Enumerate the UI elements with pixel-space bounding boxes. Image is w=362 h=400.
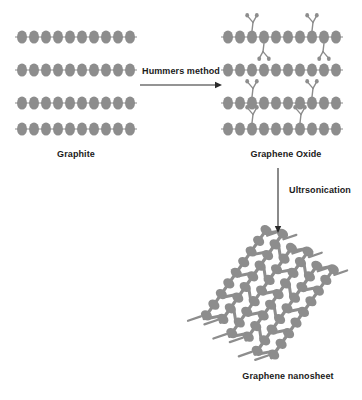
nanosheet-lattice — [188, 212, 347, 379]
carbon-atom — [283, 63, 293, 76]
ultrasonication-arrow — [275, 168, 281, 233]
group-terminal-atom — [305, 13, 309, 17]
carbon-atom — [89, 96, 99, 109]
carbon-atom — [41, 30, 51, 43]
carbon-layer — [15, 63, 137, 76]
hummers-method-arrow — [140, 82, 222, 88]
carbon-layer — [221, 122, 343, 135]
carbon-atom — [101, 122, 111, 135]
carbon-atom — [319, 63, 329, 76]
lattice-chain — [199, 223, 274, 323]
carbon-layer — [15, 122, 137, 135]
carbon-atom — [319, 96, 329, 109]
carbon-atom — [307, 96, 317, 109]
lattice-rung — [265, 288, 274, 297]
carbon-atom — [283, 122, 293, 135]
carbon-atom — [65, 30, 75, 43]
carbon-atom — [295, 30, 305, 43]
carbon-atom — [125, 30, 135, 43]
group-terminal-atom — [315, 13, 319, 17]
carbon-atom — [77, 30, 87, 43]
carbon-atom — [77, 122, 87, 135]
carbon-atom — [113, 30, 123, 43]
carbon-layer — [15, 30, 137, 43]
group-terminal-atom — [257, 57, 261, 61]
carbon-atom — [283, 30, 293, 43]
carbon-atom — [307, 63, 317, 76]
lattice-rung — [306, 284, 315, 293]
carbon-atom — [331, 122, 341, 135]
carbon-atom — [53, 30, 63, 43]
carbon-atom — [53, 122, 63, 135]
carbon-atom — [89, 30, 99, 43]
edge-bond-stub — [188, 312, 201, 326]
carbon-atom — [53, 63, 63, 76]
group-terminal-atom — [255, 79, 259, 83]
group-terminal-atom — [305, 79, 309, 83]
carbon-atom — [223, 96, 233, 109]
lattice-rung — [225, 291, 234, 300]
carbon-atom — [271, 30, 281, 43]
carbon-atom — [235, 63, 245, 76]
carbon-atom — [259, 63, 269, 76]
carbon-atom — [223, 30, 233, 43]
group-terminal-atom — [267, 57, 271, 61]
oxygen-functional-group — [245, 13, 258, 31]
oxygen-functional-group — [305, 79, 318, 97]
carbon-atom — [65, 63, 75, 76]
edge-bond-stub — [239, 347, 252, 361]
carbon-atom — [29, 122, 39, 135]
lattice-rung — [240, 270, 249, 279]
group-stem — [312, 88, 313, 97]
carbon-layer — [221, 63, 343, 76]
group-terminal-atom — [327, 57, 331, 61]
carbon-atom — [319, 30, 329, 43]
carbon-atom — [331, 63, 341, 76]
oxygen-functional-group — [305, 13, 318, 31]
lattice-chain — [215, 227, 290, 327]
carbon-atom — [41, 63, 51, 76]
group-terminal-atom — [255, 105, 259, 109]
graphite-caption: Graphite — [57, 149, 95, 159]
group-terminal-atom — [245, 13, 249, 17]
edge-bond-stub — [213, 330, 226, 344]
group-stem — [263, 43, 264, 52]
hummers-method-label: Hummers method — [142, 66, 220, 76]
carbon-atom — [41, 122, 51, 135]
lattice-chain — [266, 262, 341, 362]
carbon-atom — [77, 63, 87, 76]
graphene-synthesis-diagram: Hummers method Ultrsonication Graphite G… — [0, 0, 362, 400]
diagram-canvas: Hummers method Ultrsonication Graphite G… — [0, 0, 362, 400]
carbon-atom — [319, 122, 329, 135]
lattice-chain — [241, 244, 316, 344]
carbon-atom — [101, 63, 111, 76]
lattice-rung — [276, 327, 285, 336]
lattice-rung — [255, 249, 264, 258]
carbon-atom — [259, 122, 269, 135]
carbon-atom — [17, 30, 27, 43]
carbon-atom — [41, 96, 51, 109]
carbon-layer — [221, 96, 343, 109]
carbon-atom — [259, 96, 269, 109]
carbon-atom — [17, 96, 27, 109]
carbon-atom — [17, 63, 27, 76]
carbon-atom — [101, 30, 111, 43]
carbon-atom — [29, 63, 39, 76]
group-stem — [252, 114, 253, 123]
carbon-atom — [29, 30, 39, 43]
oxygen-functional-group — [317, 43, 330, 61]
carbon-atom — [247, 63, 257, 76]
carbon-atom — [331, 96, 341, 109]
lattice-chain — [250, 259, 325, 359]
lattice-rung — [280, 267, 289, 276]
carbon-atom — [77, 96, 87, 109]
carbon-atom — [223, 63, 233, 76]
lattice-rung — [251, 309, 260, 318]
carbon-atom — [307, 30, 317, 43]
group-terminal-atom — [245, 105, 249, 109]
carbon-atom — [65, 122, 75, 135]
group-terminal-atom — [255, 13, 259, 17]
carbon-atom — [307, 122, 317, 135]
carbon-atom — [113, 96, 123, 109]
carbon-atom — [113, 63, 123, 76]
